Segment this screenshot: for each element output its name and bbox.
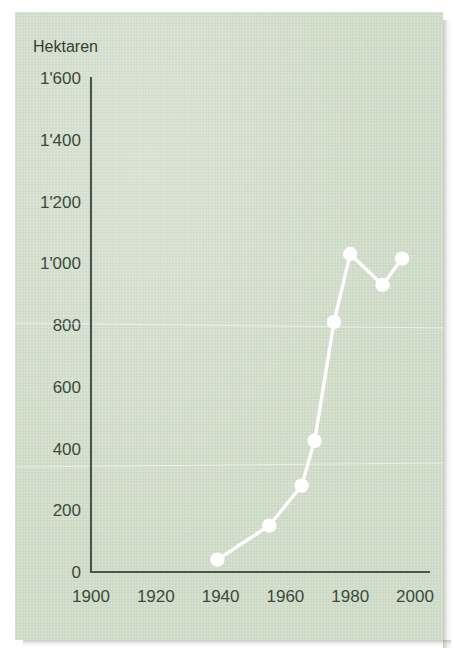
data-point-marker <box>327 315 341 329</box>
data-point-marker <box>375 278 389 292</box>
data-point-marker <box>395 251 409 265</box>
data-point-marker <box>307 434 321 448</box>
y-axis-tick-label: 0 <box>72 563 81 582</box>
x-axis-tick-label: 1940 <box>202 587 240 606</box>
x-axis-tick-label: 1980 <box>331 587 369 606</box>
x-axis-tick-label: 1960 <box>266 587 304 606</box>
y-axis-tick-label: 1'400 <box>40 131 81 150</box>
paper-hairline <box>15 463 443 467</box>
y-axis-unit-label: Hektaren <box>33 38 98 55</box>
data-point-marker <box>210 552 224 566</box>
x-axis-tick-label: 1900 <box>72 587 110 606</box>
series-markers <box>210 247 409 567</box>
y-axis-tick-label: 1'200 <box>40 193 81 212</box>
data-point-marker <box>343 247 357 261</box>
panel-shadow-right <box>443 20 452 648</box>
data-point-marker <box>262 519 276 533</box>
y-axis-tick-label: 200 <box>53 501 81 520</box>
chart-axes <box>91 78 429 572</box>
x-axis-tick-labels: 190019201940196019802000 <box>72 587 434 606</box>
y-axis-tick-label: 600 <box>53 378 81 397</box>
y-axis-unit-label-group: Hektaren <box>33 38 98 55</box>
x-axis-tick-label: 2000 <box>396 587 434 606</box>
data-point-marker <box>294 478 308 492</box>
y-axis-tick-label: 1'000 <box>40 254 81 273</box>
panel-shadow-bottom <box>23 640 451 648</box>
y-axis-tick-label: 400 <box>53 440 81 459</box>
series-line-hektaren <box>217 254 402 560</box>
x-axis-tick-label: 1920 <box>137 587 175 606</box>
chart-figure: Hektaren 02004006008001'0001'2001'4001'6… <box>15 12 443 640</box>
y-axis-tick-label: 800 <box>53 316 81 335</box>
line-chart-plot: Hektaren 02004006008001'0001'2001'4001'6… <box>15 12 443 640</box>
y-axis-tick-label: 1'600 <box>40 69 81 88</box>
y-axis-tick-labels: 02004006008001'0001'2001'4001'600 <box>40 69 81 582</box>
